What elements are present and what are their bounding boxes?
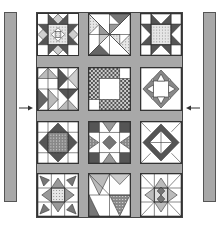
quilt-block-r3c1 [37, 121, 79, 164]
right-pointing-arrow-icon [19, 105, 33, 111]
quilt-block-r2c2 [88, 67, 131, 111]
quilt-block-r4c1 [37, 173, 79, 217]
quilt-block-r4c2 [88, 173, 131, 217]
quilt-block-r2c3 [140, 67, 182, 111]
quilt-block-r1c3 [140, 13, 182, 56]
left-pointing-arrow-icon [186, 105, 200, 111]
quilt-block-r4c3 [140, 173, 182, 217]
left-border-strip [4, 12, 17, 202]
right-border-strip [203, 12, 216, 202]
quilt-block-r3c2 [88, 121, 131, 164]
quilt-block-r3c3 [140, 121, 182, 164]
quilt-block-r1c2 [88, 13, 131, 56]
quilt-block-r1c1 [37, 13, 79, 56]
quilt-block-r2c1 [37, 67, 79, 111]
quilt-center-panel [36, 12, 183, 218]
